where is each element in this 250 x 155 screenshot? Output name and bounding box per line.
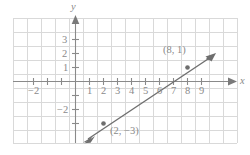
y-axis-label: y — [71, 2, 76, 13]
x-tick-label-neg2: −2 — [28, 86, 39, 97]
x-tick-label-7: 7 — [171, 86, 176, 97]
point-annotation-8-1: (8, 1) — [163, 45, 186, 56]
coordinate-plane-figure: y x 3 2 1 −2 −2 1 2 3 4 5 6 7 8 9 (8, 1)… — [0, 0, 250, 155]
x-tick-label-2: 2 — [101, 86, 106, 97]
plotted-line — [83, 53, 216, 143]
x-tick-label-9: 9 — [199, 86, 204, 97]
y-tick-label-neg2: −2 — [57, 105, 68, 116]
x-tick-label-5: 5 — [143, 86, 148, 97]
x-tick-label-4: 4 — [129, 86, 134, 97]
data-point-8-1 — [185, 65, 190, 70]
y-tick-label-1: 1 — [63, 63, 68, 74]
x-tick-label-6: 6 — [157, 86, 162, 97]
x-tick-label-3: 3 — [115, 86, 120, 97]
point-annotation-2-neg3: (2, −3) — [110, 126, 139, 137]
y-tick-label-2: 2 — [62, 49, 67, 60]
x-axis-label: x — [240, 76, 245, 87]
data-point-2-neg3 — [101, 121, 106, 126]
x-tick-label-1: 1 — [87, 86, 92, 97]
x-tick-label-8: 8 — [185, 86, 190, 97]
y-tick-label-3: 3 — [62, 35, 67, 46]
